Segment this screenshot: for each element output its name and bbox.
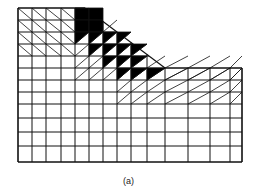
figure-caption: (a) <box>0 176 257 186</box>
slope-mesh-diagram <box>0 0 257 170</box>
